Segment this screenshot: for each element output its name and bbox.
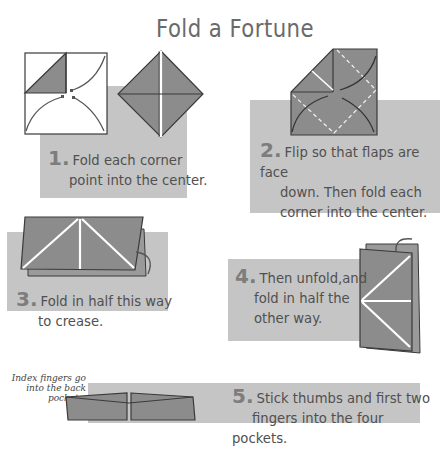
step-5-text: 5.Stick thumbs and first two fingers int… [232,386,442,449]
step-5-number: 5. [232,384,254,408]
